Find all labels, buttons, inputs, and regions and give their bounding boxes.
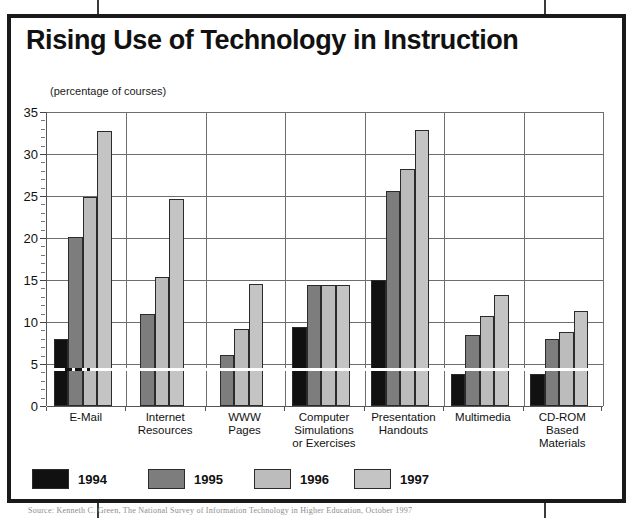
x-axis-category-label: E-Mail bbox=[46, 411, 125, 424]
y-axis-minor-tick bbox=[41, 137, 45, 138]
gridline-horizontal bbox=[47, 154, 603, 155]
legend-label: 1995 bbox=[194, 472, 223, 487]
gridline-horizontal bbox=[47, 112, 603, 113]
bar bbox=[68, 237, 83, 406]
bar bbox=[336, 285, 351, 406]
legend-item[interactable]: 1994 bbox=[32, 468, 107, 490]
y-axis-minor-tick bbox=[41, 162, 45, 163]
x-axis-label-line: WWW bbox=[205, 411, 284, 424]
x-axis-category-label: Multimedia bbox=[443, 411, 522, 424]
bar bbox=[54, 339, 69, 406]
y-axis-unit-note: (percentage of courses) bbox=[50, 85, 166, 97]
y-axis-minor-tick bbox=[41, 372, 45, 373]
y-axis-minor-tick bbox=[41, 246, 45, 247]
x-axis-label-line: Materials bbox=[523, 437, 602, 450]
bar bbox=[415, 130, 430, 406]
gridline-vertical bbox=[285, 112, 286, 406]
bar bbox=[321, 285, 336, 406]
x-axis-label-line: Presentation bbox=[364, 411, 443, 424]
legend-item[interactable]: 1997 bbox=[354, 468, 429, 490]
y-axis-minor-tick bbox=[41, 347, 45, 348]
legend-label: 1997 bbox=[400, 472, 429, 487]
x-axis-category-label: WWWPages bbox=[205, 411, 284, 437]
bar bbox=[169, 199, 184, 406]
bar bbox=[545, 339, 560, 406]
y-axis-minor-tick bbox=[41, 255, 45, 256]
y-axis-tick-label: 25 bbox=[12, 189, 38, 204]
chart-page: Rising Use of Technology in Instruction … bbox=[0, 0, 636, 518]
y-axis-minor-tick bbox=[41, 204, 45, 205]
y-axis-minor-tick bbox=[41, 188, 45, 189]
legend-swatch bbox=[354, 469, 391, 489]
bar bbox=[307, 285, 322, 406]
x-axis-line bbox=[47, 406, 603, 407]
x-axis-label-line: Based bbox=[523, 424, 602, 437]
legend-swatch bbox=[32, 469, 69, 489]
y-axis-minor-tick bbox=[41, 330, 45, 331]
x-axis-label-line: Multimedia bbox=[443, 411, 522, 424]
x-axis-tick bbox=[125, 407, 126, 411]
bar bbox=[494, 295, 509, 406]
bar bbox=[559, 332, 574, 406]
legend-item[interactable]: 1995 bbox=[148, 468, 223, 490]
x-axis-category-label: PresentationHandouts bbox=[364, 411, 443, 437]
bar bbox=[83, 197, 98, 406]
x-axis-label-line: Computer bbox=[284, 411, 363, 424]
gridline-vertical bbox=[365, 112, 366, 406]
x-axis-category-labels: E-MailInternetResourcesWWWPagesComputerS… bbox=[46, 411, 602, 463]
bar bbox=[465, 335, 480, 406]
y-axis-tick-label: 10 bbox=[12, 315, 38, 330]
bar bbox=[97, 131, 112, 406]
plot-right-edge bbox=[603, 112, 604, 406]
gridline-vertical bbox=[444, 112, 445, 406]
y-axis-tick-label: 35 bbox=[12, 105, 38, 120]
crop-mark-bottom-right bbox=[544, 502, 546, 518]
x-axis-label-line: or Exercises bbox=[284, 437, 363, 450]
y-axis-tick-label: 15 bbox=[12, 273, 38, 288]
x-axis-tick bbox=[443, 407, 444, 411]
y-axis-tick-labels: 05101520253035 bbox=[8, 112, 38, 406]
y-axis-minor-tick bbox=[41, 398, 45, 399]
bar bbox=[371, 280, 386, 406]
y-axis-minor-tick bbox=[41, 288, 45, 289]
y-axis-tick-label: 20 bbox=[12, 231, 38, 246]
bar bbox=[480, 316, 495, 406]
x-axis-label-line: Handouts bbox=[364, 424, 443, 437]
chart-title: Rising Use of Technology in Instruction bbox=[26, 25, 518, 56]
bar bbox=[220, 355, 235, 406]
legend-label: 1996 bbox=[300, 472, 329, 487]
gridline-vertical bbox=[126, 112, 127, 406]
legend-swatch bbox=[254, 469, 291, 489]
x-axis-tick bbox=[205, 407, 206, 411]
legend-swatch bbox=[148, 469, 185, 489]
legend-label: 1994 bbox=[78, 472, 107, 487]
plot-inner bbox=[47, 112, 603, 406]
y-axis-tick-label: 0 bbox=[12, 399, 38, 414]
y-axis-minor-tick bbox=[41, 129, 45, 130]
x-axis-tick bbox=[284, 407, 285, 411]
y-axis-minor-tick bbox=[41, 263, 45, 264]
y-axis-minor-tick bbox=[41, 389, 45, 390]
y-axis-minor-tick bbox=[41, 297, 45, 298]
x-axis-label-line: Pages bbox=[205, 424, 284, 437]
source-caption: Source: Kenneth C. Green, The National S… bbox=[28, 506, 412, 515]
x-axis-tick bbox=[523, 407, 524, 411]
bar bbox=[155, 277, 170, 406]
gridline-horizontal bbox=[47, 196, 603, 197]
gridline-vertical bbox=[206, 112, 207, 406]
x-axis-tick bbox=[46, 407, 47, 411]
y-axis-minor-tick bbox=[41, 314, 45, 315]
gridline-horizontal bbox=[47, 280, 603, 281]
legend-item[interactable]: 1996 bbox=[254, 468, 329, 490]
x-axis-category-label: ComputerSimulationsor Exercises bbox=[284, 411, 363, 451]
x-axis-label-line: Resources bbox=[125, 424, 204, 437]
bar bbox=[400, 169, 415, 406]
bar bbox=[249, 284, 264, 406]
y-axis-minor-tick bbox=[41, 171, 45, 172]
bar bbox=[530, 374, 545, 406]
y-axis-minor-tick bbox=[41, 230, 45, 231]
x-axis-category-label: CD-ROMBasedMaterials bbox=[523, 411, 602, 451]
bar bbox=[234, 329, 249, 406]
y-axis-minor-tick bbox=[41, 272, 45, 273]
plot-area bbox=[46, 112, 603, 406]
